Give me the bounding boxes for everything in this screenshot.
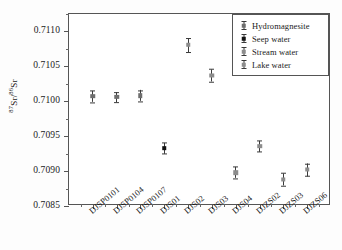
legend-marker-icon	[238, 46, 249, 57]
error-cap-bottom	[257, 152, 262, 153]
marker	[281, 177, 286, 182]
legend-marker-icon	[238, 33, 249, 44]
y-tick	[64, 31, 69, 32]
error-cap-bottom	[186, 52, 191, 53]
marker	[162, 146, 167, 151]
legend-cap-bottom	[241, 29, 246, 30]
marker	[210, 73, 215, 78]
error-cap-bottom	[281, 186, 286, 187]
legend-core	[241, 23, 246, 28]
error-cap-top	[257, 140, 262, 141]
error-cap-top	[209, 69, 214, 70]
legend-item[interactable]: Seep water	[238, 32, 324, 45]
y-tick	[64, 101, 69, 102]
legend-core	[241, 49, 246, 54]
error-cap-top	[90, 91, 95, 92]
y-tick-label: 0.7090	[0, 165, 60, 175]
error-cap-top	[114, 92, 119, 93]
y-tick-minor	[66, 84, 69, 85]
marker	[257, 144, 262, 149]
legend-cap-bottom	[241, 68, 246, 69]
x-tick-minor	[81, 204, 82, 207]
marker	[233, 170, 238, 175]
data-point	[89, 90, 96, 103]
legend-core	[241, 62, 246, 67]
legend-marker-icon	[238, 59, 249, 70]
legend-cap-bottom	[241, 55, 246, 56]
y-tick-minor	[66, 49, 69, 50]
legend-item[interactable]: Lake water	[238, 58, 324, 71]
marker	[305, 167, 310, 172]
error-cap-top	[233, 167, 238, 168]
y-axis-superscript-87: 87	[7, 106, 14, 113]
error-cap-bottom	[233, 178, 238, 179]
error-cap-bottom	[209, 82, 214, 83]
legend-cap-bottom	[241, 42, 246, 43]
marker	[114, 95, 119, 100]
data-point	[232, 166, 239, 179]
y-tick	[64, 206, 69, 207]
data-point	[137, 89, 144, 102]
error-cap-top	[138, 90, 143, 91]
y-tick-minor	[66, 14, 69, 15]
y-tick	[64, 66, 69, 67]
error-cap-bottom	[305, 176, 310, 177]
legend-label: Seep water	[252, 34, 291, 44]
data-point	[208, 68, 215, 83]
error-cap-bottom	[90, 102, 95, 103]
legend-cap-top	[241, 34, 246, 35]
y-tick-minor	[66, 154, 69, 155]
y-tick-label: 0.7110	[0, 25, 60, 35]
y-tick-label: 0.7100	[0, 95, 60, 105]
error-cap-top	[281, 173, 286, 174]
legend-cap-top	[241, 21, 246, 22]
legend-label: Hydromagnesite	[252, 21, 310, 31]
legend-cap-top	[241, 47, 246, 48]
data-point	[280, 172, 287, 187]
legend-item[interactable]: Hydromagnesite	[238, 19, 324, 32]
error-cap-bottom	[162, 154, 167, 155]
data-point	[256, 139, 263, 152]
data-point	[161, 141, 168, 154]
data-point	[185, 37, 192, 53]
y-axis-sr-2: Sr	[9, 79, 19, 87]
y-tick-minor	[66, 119, 69, 120]
data-point	[304, 162, 311, 177]
legend: HydromagnesiteSeep waterStream waterLake…	[232, 14, 329, 76]
figure: 87Sr/86Sr 0.70850.70900.70950.71000.7105…	[0, 0, 342, 250]
y-tick	[64, 136, 69, 137]
legend-cap-top	[241, 60, 246, 61]
marker	[91, 94, 96, 99]
legend-label: Stream water	[252, 47, 298, 57]
error-cap-top	[305, 163, 310, 164]
marker	[138, 93, 143, 98]
y-tick	[64, 171, 69, 172]
y-tick-label: 0.7095	[0, 130, 60, 140]
error-cap-top	[162, 142, 167, 143]
y-tick-label: 0.7085	[0, 200, 60, 210]
error-cap-bottom	[114, 102, 119, 103]
y-tick-label: 0.7105	[0, 60, 60, 70]
data-point	[113, 91, 120, 103]
y-tick-minor	[66, 189, 69, 190]
error-cap-top	[186, 38, 191, 39]
marker	[186, 42, 191, 47]
legend-item[interactable]: Stream water	[238, 45, 324, 58]
y-axis-superscript-86: 86	[7, 88, 14, 95]
error-cap-bottom	[138, 101, 143, 102]
legend-marker-icon	[238, 20, 249, 31]
legend-label: Lake water	[252, 60, 291, 70]
legend-core	[241, 36, 246, 41]
